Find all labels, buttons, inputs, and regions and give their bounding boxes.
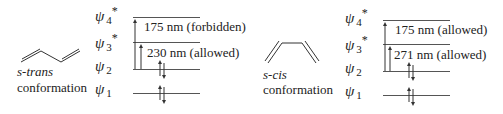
right-transition-175nm-label: 175 nm (allowed) bbox=[395, 22, 487, 38]
s-cis-label: s-cis bbox=[263, 67, 287, 83]
right-electron-arrows bbox=[409, 64, 413, 104]
left-psi1-label: ψ1 bbox=[95, 81, 112, 99]
s-trans-conformation-label: conformation bbox=[17, 80, 87, 96]
s-trans-butadiene-structure bbox=[21, 49, 80, 62]
right-psi4-label: ψ4* bbox=[345, 6, 368, 28]
right-psi3-label: ψ3* bbox=[345, 33, 368, 55]
left-electron-arrows bbox=[160, 62, 164, 102]
left-transition-230nm-label: 230 nm (allowed) bbox=[147, 45, 239, 61]
right-psi2-label: ψ2 bbox=[345, 60, 362, 78]
left-psi2-label: ψ2 bbox=[95, 58, 112, 76]
right-transition-271nm-label: 271 nm (allowed) bbox=[394, 47, 486, 63]
left-psi4-label: ψ4* bbox=[95, 4, 118, 26]
s-trans-label: s-trans bbox=[17, 64, 53, 80]
right-psi1-label: ψ1 bbox=[345, 83, 362, 101]
left-transition-175nm-label: 175 nm (forbidden) bbox=[144, 19, 246, 35]
s-cis-conformation-label: conformation bbox=[263, 82, 333, 98]
left-psi3-label: ψ3* bbox=[95, 31, 118, 53]
left-transition-arrows bbox=[135, 21, 141, 69]
right-transition-arrows bbox=[385, 24, 390, 71]
s-cis-butadiene-structure bbox=[265, 41, 319, 63]
